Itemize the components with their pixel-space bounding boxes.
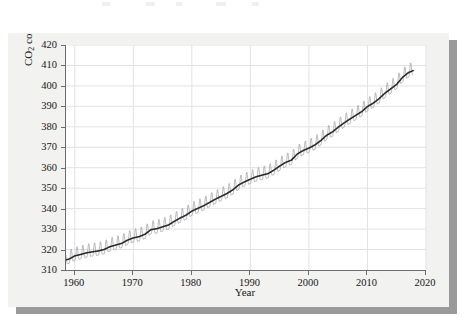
y-axis-tick-label: 320: [27, 245, 57, 256]
gridlines: [66, 45, 426, 270]
series-trend-line: [66, 71, 413, 260]
y-axis-tick-mark: [61, 147, 65, 148]
y-axis-tick-mark: [61, 45, 65, 46]
scan-artifact: [0, 0, 465, 10]
y-axis-tick-mark: [61, 127, 65, 128]
x-axis-tick-mark: [425, 271, 426, 275]
x-axis-tick-mark: [191, 271, 192, 275]
y-axis-tick-mark: [61, 188, 65, 189]
x-axis-tick-mark: [249, 271, 250, 275]
y-axis-tick-mark: [61, 250, 65, 251]
plot-area: [65, 45, 426, 271]
y-axis-tick-label: 330: [27, 224, 57, 235]
x-axis-tick-mark: [132, 271, 133, 275]
y-axis-tick-mark: [61, 270, 65, 271]
y-axis-tick-mark: [61, 229, 65, 230]
y-axis-tick-mark: [61, 65, 65, 66]
y-axis-tick-label: 360: [27, 163, 57, 174]
series-seasonal-line: [66, 63, 413, 264]
y-axis-tick-label: 310: [27, 265, 57, 276]
y-axis-tick-label: 380: [27, 122, 57, 133]
x-axis-tick-mark: [74, 271, 75, 275]
y-axis-tick-label: 390: [27, 101, 57, 112]
y-axis-tick-label: 400: [27, 81, 57, 92]
y-axis-tick-label: 340: [27, 204, 57, 215]
y-axis-tick-mark: [61, 106, 65, 107]
y-axis-tick-mark: [61, 209, 65, 210]
y-axis-tick-mark: [61, 86, 65, 87]
x-axis-tick-mark: [366, 271, 367, 275]
y-axis-tick-mark: [61, 168, 65, 169]
y-axis-tick-label: 420: [27, 40, 57, 51]
y-axis-tick-label: 350: [27, 183, 57, 194]
x-axis-tick-mark: [308, 271, 309, 275]
data-series-layer: [66, 45, 427, 271]
chart-figure: CO2 concentration (ppm by volume) 310320…: [8, 33, 449, 307]
x-axis-title: Year: [65, 286, 425, 298]
y-axis-tick-label: 370: [27, 142, 57, 153]
y-axis-tick-label: 410: [27, 60, 57, 71]
